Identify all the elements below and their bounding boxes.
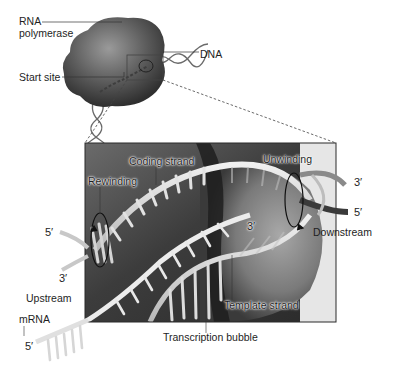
label-downstream: Downstream xyxy=(313,226,372,238)
label-mrna-5prime: 5′ xyxy=(25,340,33,352)
label-transcription-bubble: Transcription bubble xyxy=(163,331,258,343)
rna-polymerase-shape xyxy=(63,17,165,107)
label-upstream-5prime: 5′ xyxy=(45,226,53,238)
label-unwinding: Unwinding xyxy=(263,153,312,165)
label-coding-strand: Coding strand xyxy=(129,155,194,167)
label-rna-polymerase: RNA polymerase xyxy=(19,15,73,39)
upstream-helix xyxy=(60,232,88,270)
label-rewinding: Rewinding xyxy=(88,175,137,187)
label-rna-polymerase-line2: polymerase xyxy=(19,27,73,39)
label-downstream-5prime: 5′ xyxy=(354,206,362,218)
label-rna-polymerase-line1: RNA xyxy=(19,15,73,27)
label-start-site: Start site xyxy=(19,71,60,83)
label-template-strand: Template strand xyxy=(224,299,299,311)
label-downstream-3prime: 3′ xyxy=(354,176,362,188)
label-upstream-3prime: 3′ xyxy=(59,272,67,284)
diagram-artwork xyxy=(0,0,394,370)
label-mrna: mRNA xyxy=(19,313,50,325)
transcription-diagram: RNA polymerase Start site DNA Coding str… xyxy=(0,0,394,370)
label-dna: DNA xyxy=(200,48,222,60)
detail-panel xyxy=(85,143,336,322)
label-upstream: Upstream xyxy=(26,292,72,304)
label-rna-3prime-end: 3′ xyxy=(247,220,255,232)
